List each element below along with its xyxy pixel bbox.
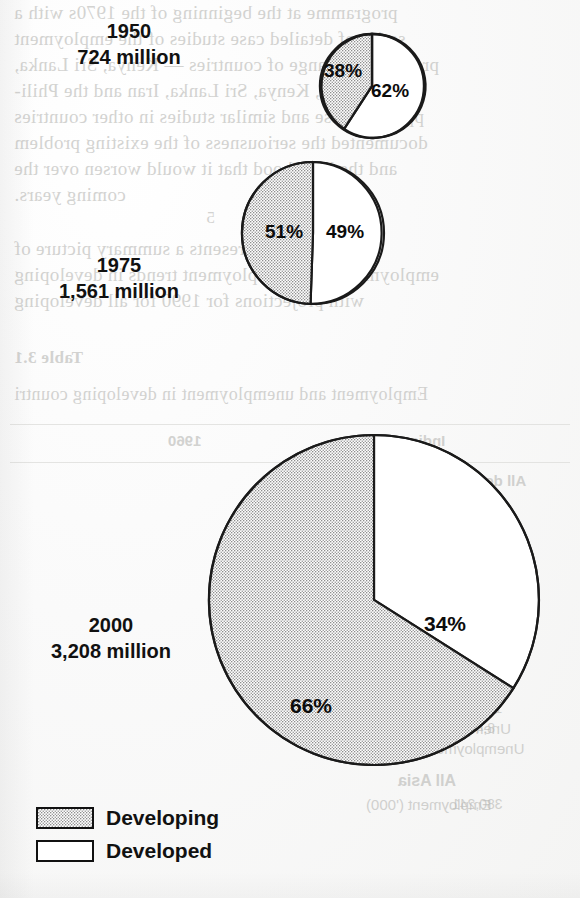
- pie-slice-label-developed: 49%: [326, 221, 364, 243]
- pie-chart-2000: 66% 34%: [204, 430, 544, 770]
- pie-year-2000: 2000: [16, 612, 206, 638]
- legend-label-developed: Developed: [106, 839, 212, 863]
- pie-title-1975: 1975 1,561 million: [24, 252, 214, 305]
- bleed-table-caption-number: Table 3.1: [14, 348, 83, 368]
- pie-year-1975: 1975: [24, 252, 214, 278]
- legend-swatch-developing: [36, 807, 94, 829]
- bleed-table-row: All Asia: [398, 772, 456, 790]
- pie-title-2000: 2000 3,208 million: [16, 612, 206, 665]
- bleed-line: coming years.: [14, 184, 126, 206]
- pie-slice-label-developed: 34%: [424, 612, 466, 636]
- legend-item-developing: Developing: [36, 806, 219, 830]
- pie-title-1950: 1950 724 million: [24, 18, 234, 71]
- pie-total-1975: 1,561 million: [24, 278, 214, 304]
- bleed-section-number: 5: [206, 208, 215, 228]
- bleed-table-row: Employment ('000): [366, 796, 491, 813]
- bleed-table-header-cell: 1960: [168, 432, 201, 449]
- pie-year-1950: 1950: [24, 18, 234, 44]
- bleed-table-cell: 380,241: [452, 796, 503, 812]
- pie-slice-label-developing: 66%: [290, 694, 332, 718]
- scanned-page: programme at the beginning of the 1970s …: [0, 0, 580, 898]
- legend-swatch-developed: [36, 840, 94, 862]
- pie-graphic: [204, 430, 544, 770]
- pie-total-2000: 3,208 million: [16, 638, 206, 664]
- pie-slice-label-developed: 62%: [371, 80, 409, 102]
- legend-item-developed: Developed: [36, 839, 219, 863]
- pie-total-1950: 724 million: [24, 44, 234, 70]
- chart-legend: Developing Developed: [36, 806, 219, 872]
- pie-graphic: [238, 158, 388, 308]
- bleed-table-caption: Employment and unemployment in developin…: [14, 384, 428, 405]
- pie-chart-1950: 38% 62%: [312, 26, 432, 146]
- pie-slice-label-developing: 51%: [265, 221, 303, 243]
- bleed-table-rule: [10, 424, 570, 425]
- legend-label-developing: Developing: [106, 806, 219, 830]
- pie-slice-label-developing: 38%: [324, 60, 362, 82]
- pie-chart-1975: 51% 49%: [238, 158, 388, 308]
